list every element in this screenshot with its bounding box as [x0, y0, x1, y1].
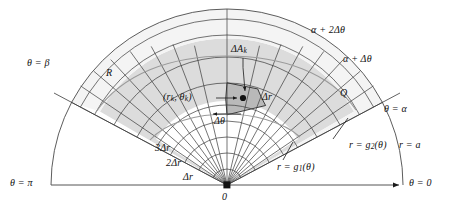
label-g2-head: r = g	[349, 139, 371, 150]
label-r-equals-g2: r = g2(θ)	[349, 140, 387, 151]
label-origin: 0	[222, 192, 227, 202]
label-delta-area: ΔAk	[231, 44, 247, 55]
label-delta-theta: Δθ	[214, 116, 225, 126]
label-delta-r-cell: Δr	[262, 92, 272, 102]
label-point-open: (r	[163, 91, 171, 102]
label-point-close: )	[188, 91, 192, 102]
label-theta-zero: θ = 0	[409, 178, 432, 188]
label-sample-point: (rk, θk)	[163, 92, 192, 103]
label-g1-head: r = g	[277, 161, 299, 172]
label-theta-alpha: θ = α	[384, 104, 407, 114]
origin-marker	[223, 181, 230, 188]
label-r-equals-a: r = a	[399, 140, 421, 150]
label-region-R: R	[106, 68, 112, 78]
label-point-mid: , θ	[174, 91, 185, 102]
label-region-Q: Q	[340, 88, 347, 98]
polar-partition-figure: θ = π θ = 0 0 θ = α θ = β α + Δθ α + 2Δθ…	[0, 0, 454, 212]
label-g2-tail: (θ)	[375, 139, 387, 150]
label-theta-beta: θ = β	[27, 58, 50, 68]
label-theta-pi: θ = π	[10, 178, 33, 188]
label-delta-r-axis: Δr	[183, 172, 193, 182]
label-delta-area-subscript: k	[243, 46, 247, 55]
label-delta-area-head: ΔA	[231, 43, 243, 54]
label-alpha-plus-delta-theta: α + Δθ	[343, 54, 372, 64]
sample-point-marker	[240, 95, 246, 101]
label-two-delta-r: 2Δr	[166, 158, 181, 168]
label-three-delta-r: 3Δr	[155, 143, 170, 153]
label-alpha-plus-2delta-theta: α + 2Δθ	[311, 25, 345, 35]
label-r-equals-g1: r = g1(θ)	[277, 162, 315, 173]
label-g1-tail: (θ)	[303, 161, 315, 172]
